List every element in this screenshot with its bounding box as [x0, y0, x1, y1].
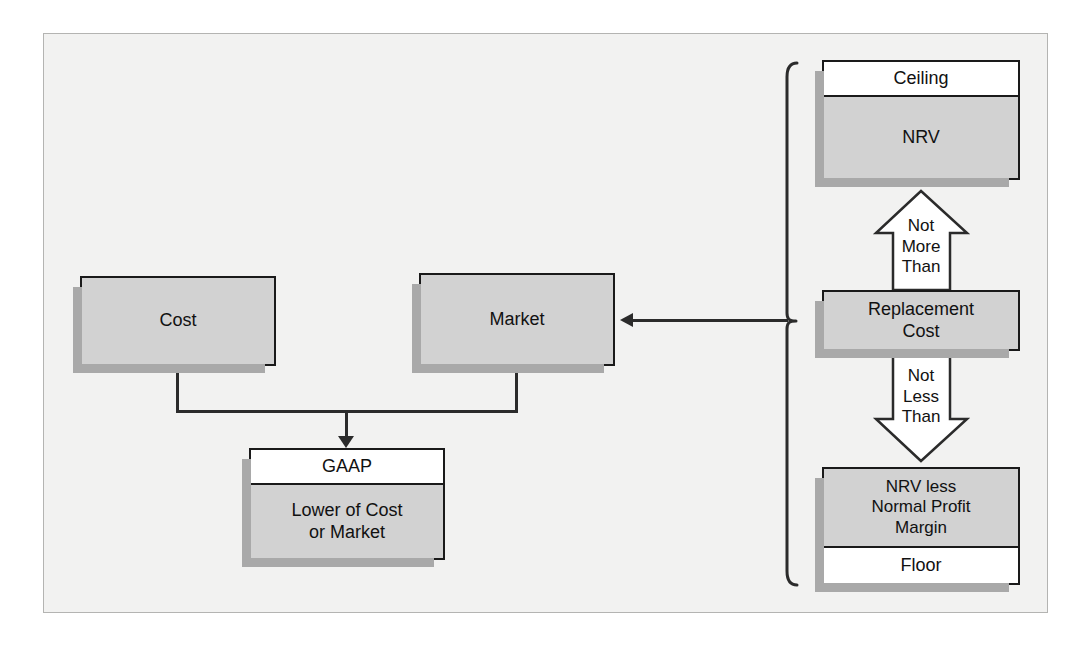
node-cost-label: Cost [82, 278, 274, 364]
node-ceiling-header: Ceiling [824, 62, 1018, 97]
arrow-down-label-line1: Not [878, 366, 964, 387]
node-floor[interactable]: NRV less Normal Profit Margin Floor [822, 467, 1020, 585]
node-gaap[interactable]: GAAP Lower of Cost or Market [249, 448, 445, 560]
node-gaap-body-line1: Lower of Cost [291, 500, 402, 521]
arrow-up-label-line3: Than [878, 257, 964, 278]
arrow-up-label: Not More Than [878, 216, 964, 278]
node-replacement-cost-body: Replacement Cost [824, 292, 1018, 349]
connector-market-down [515, 366, 518, 413]
node-market[interactable]: Market [419, 273, 615, 366]
node-floor-footer: Floor [824, 548, 1018, 583]
node-replacement-cost[interactable]: Replacement Cost [822, 290, 1020, 351]
node-ceiling-body: NRV [824, 97, 1018, 178]
arrow-down-label-line3: Than [878, 407, 964, 428]
arrowhead-down-icon [338, 436, 354, 448]
node-floor-body: NRV less Normal Profit Margin [824, 469, 1018, 548]
node-gaap-header: GAAP [251, 450, 443, 485]
node-replacement-cost-line1: Replacement [868, 299, 974, 320]
node-gaap-body: Lower of Cost or Market [251, 485, 443, 558]
arrow-up-label-line1: Not [878, 216, 964, 237]
arrowhead-left-icon [620, 313, 633, 327]
node-floor-body-line1: NRV less [886, 477, 957, 497]
node-replacement-cost-line2: Cost [902, 321, 939, 342]
node-floor-body-line2: Normal Profit [871, 497, 970, 517]
node-cost[interactable]: Cost [80, 276, 276, 366]
arrow-down-label: Not Less Than [878, 366, 964, 428]
node-market-label: Market [421, 275, 613, 364]
connector-cost-down [176, 366, 179, 413]
node-ceiling[interactable]: Ceiling NRV [822, 60, 1020, 180]
arrow-up-label-line2: More [878, 237, 964, 258]
connector-bracket-to-market [632, 319, 788, 322]
node-gaap-body-line2: or Market [309, 522, 385, 543]
diagram-canvas: Cost Market GAAP Lower of Cost or Market… [0, 0, 1082, 649]
arrow-down-label-line2: Less [878, 387, 964, 408]
node-floor-body-line3: Margin [895, 518, 947, 538]
